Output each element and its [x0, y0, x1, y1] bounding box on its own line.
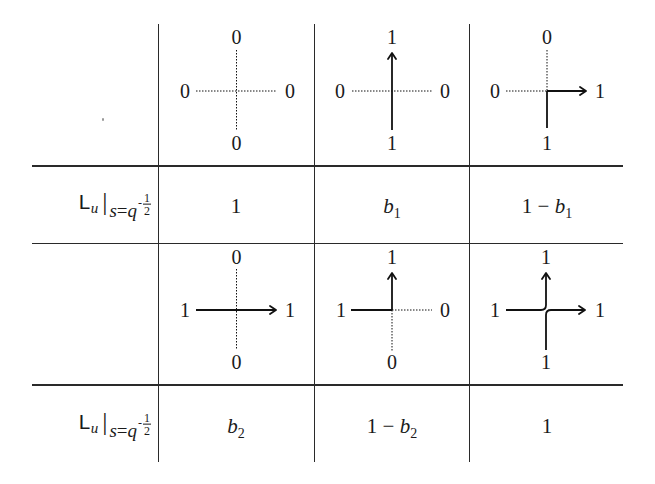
label-top: 0 [232, 246, 242, 268]
label-top: 1 [387, 246, 397, 268]
label-left: 0 [490, 80, 500, 102]
label-right: 1 [595, 80, 605, 102]
label-right: 0 [285, 80, 295, 102]
label-top: 0 [542, 26, 552, 48]
label-top: 1 [387, 26, 397, 48]
bottom-to-right-turn-vertex-diagram [506, 50, 586, 128]
label-left: 1 [180, 299, 190, 321]
label-left: 0 [180, 80, 190, 102]
label-bottom: 1 [387, 132, 397, 154]
vertex-diagrams: 0 0 0 0 1 0 0 1 0 0 1 1 0 1 1 0 1 1 0 0 [0, 0, 655, 484]
label-right: 1 [285, 299, 295, 321]
label-left: 1 [336, 299, 346, 321]
label-bottom: 0 [232, 132, 242, 154]
vertex-weight-table: Lu|s=q-12 Lu|s=q-12 1 b1 1 − b1 b2 1 − b… [0, 0, 655, 484]
horizontal-path-vertex-diagram [196, 269, 276, 350]
label-right: 0 [440, 80, 450, 102]
empty-vertex-diagram [196, 50, 277, 131]
label-right: 0 [440, 299, 450, 321]
label-top: 1 [541, 246, 551, 268]
label-bottom: 1 [542, 132, 552, 154]
label-bottom: 0 [232, 351, 242, 373]
label-top: 0 [232, 26, 242, 48]
label-left: 1 [490, 299, 500, 321]
label-right: 1 [595, 299, 605, 321]
full-crossing-vertex-diagram [506, 273, 585, 350]
label-bottom: 0 [387, 351, 397, 373]
vertical-path-vertex-diagram [352, 53, 432, 130]
label-left: 0 [335, 80, 345, 102]
left-to-top-turn-vertex-diagram [351, 273, 432, 351]
label-bottom: 1 [541, 351, 551, 373]
